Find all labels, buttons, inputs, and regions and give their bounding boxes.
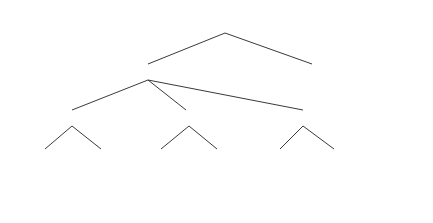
- tree-edges: [0, 0, 433, 223]
- decision-tree: [0, 0, 433, 223]
- edge-ttype-se: [72, 80, 148, 110]
- edge-var-normal3: [161, 126, 189, 149]
- edge-var-abnormal4: [189, 126, 217, 149]
- edge-ttype-var: [148, 80, 186, 110]
- edge-se-normal2: [72, 126, 101, 149]
- edge-imc1-normal5: [280, 126, 303, 149]
- edge-ttype-imc1: [148, 80, 303, 110]
- edge-idm-ttype: [148, 33, 225, 64]
- edge-imc1-cor: [303, 126, 334, 149]
- edge-idm-normal: [225, 33, 312, 64]
- edge-se-normal1: [45, 126, 72, 149]
